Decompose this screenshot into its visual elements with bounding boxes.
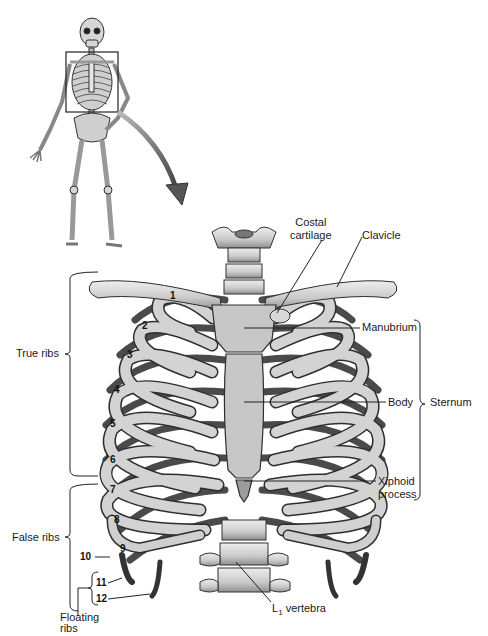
rib-number-2: 2 xyxy=(142,320,148,331)
illustration xyxy=(0,0,488,636)
rib-number-11: 11 xyxy=(96,577,107,588)
label-manubrium: Manubrium xyxy=(362,321,417,334)
label-floating-ribs: Floating ribs xyxy=(60,612,99,634)
label-xiphoid-line1: Xiphoid xyxy=(378,475,417,488)
label-costal-line2: cartilage xyxy=(290,229,332,242)
label-floating-line2: ribs xyxy=(60,623,99,634)
label-false-ribs: False ribs xyxy=(12,531,60,544)
label-xiphoid-process: Xiphoid process xyxy=(378,475,417,501)
thorax-diagram: Costal cartilage Clavicle Manubrium Body… xyxy=(0,0,488,636)
label-xiphoid-line2: process xyxy=(378,488,417,501)
rib-number-8: 8 xyxy=(114,514,120,525)
rib-number-6: 6 xyxy=(110,454,116,465)
rib-number-7: 7 xyxy=(110,484,116,495)
zoom-arrow xyxy=(118,112,176,188)
l1-suffix: vertebra xyxy=(283,602,326,614)
rib-number-12: 12 xyxy=(96,593,107,604)
label-costal-line1: Costal xyxy=(290,216,332,229)
rib-number-1: 1 xyxy=(170,290,176,301)
label-l1-vertebra: L1 vertebra xyxy=(272,602,326,619)
label-costal-cartilage: Costal cartilage xyxy=(290,216,332,242)
rib-number-5: 5 xyxy=(110,418,116,429)
rib-number-4: 4 xyxy=(114,384,120,395)
rib-cage xyxy=(89,227,397,596)
label-body: Body xyxy=(388,396,413,409)
label-clavicle: Clavicle xyxy=(362,229,401,242)
label-true-ribs: True ribs xyxy=(16,347,59,360)
rib-number-9: 9 xyxy=(120,543,126,554)
label-sternum: Sternum xyxy=(430,396,472,409)
sternum-shape xyxy=(212,305,276,502)
rib-number-10: 10 xyxy=(80,551,91,562)
rib-number-3: 3 xyxy=(127,349,133,360)
